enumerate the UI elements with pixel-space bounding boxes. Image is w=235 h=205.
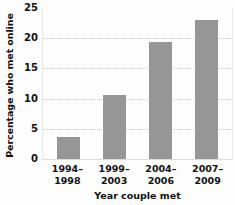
y-axis-tick-label: 5: [31, 124, 38, 134]
x-axis-tick-label-line: 1999–: [99, 163, 130, 174]
bar-slot: [91, 8, 137, 159]
y-axis-tick-labels: 0510152025: [18, 0, 40, 170]
y-axis-title-text: Percentage who met online: [4, 13, 15, 158]
x-axis-title: Year couple met: [42, 190, 233, 201]
x-axis-tick-label-line: 2009: [184, 175, 231, 187]
x-axis-tick-label-line: 2003: [91, 175, 138, 187]
x-axis-tick-label-line: 1994–: [52, 163, 83, 174]
x-axis-tick-label-line: 2004–: [145, 163, 176, 174]
bar-slot: [45, 8, 91, 159]
y-axis-tick-label: 25: [24, 3, 38, 13]
plot-area: [42, 8, 233, 160]
bar: [149, 42, 172, 159]
y-axis-tick-label: 0: [31, 154, 38, 164]
bar: [103, 95, 126, 159]
x-axis-tick-label-line: 2007–: [192, 163, 223, 174]
y-axis-tick-label: 15: [24, 63, 38, 73]
bars-layer: [43, 8, 232, 159]
x-axis-tick-label: 2004–2006: [138, 163, 185, 189]
x-axis-tick-label-line: 2006: [138, 175, 185, 187]
y-axis-tick-label: 20: [24, 33, 38, 43]
bar: [57, 137, 80, 159]
y-axis-title: Percentage who met online: [0, 0, 18, 170]
y-axis-tick-label: 10: [24, 94, 38, 104]
x-axis-tick-labels: 1994–19981999–20032004–20062007–2009: [42, 163, 233, 189]
bar-chart: Percentage who met online 0510152025 199…: [0, 0, 235, 205]
x-axis-tick-label: 2007–2009: [184, 163, 231, 189]
bar-slot: [184, 8, 230, 159]
x-axis-tick-label: 1994–1998: [44, 163, 91, 189]
x-axis-tick-label: 1999–2003: [91, 163, 138, 189]
bar-slot: [138, 8, 184, 159]
x-axis-tick-label-line: 1998: [44, 175, 91, 187]
bar: [195, 20, 218, 159]
